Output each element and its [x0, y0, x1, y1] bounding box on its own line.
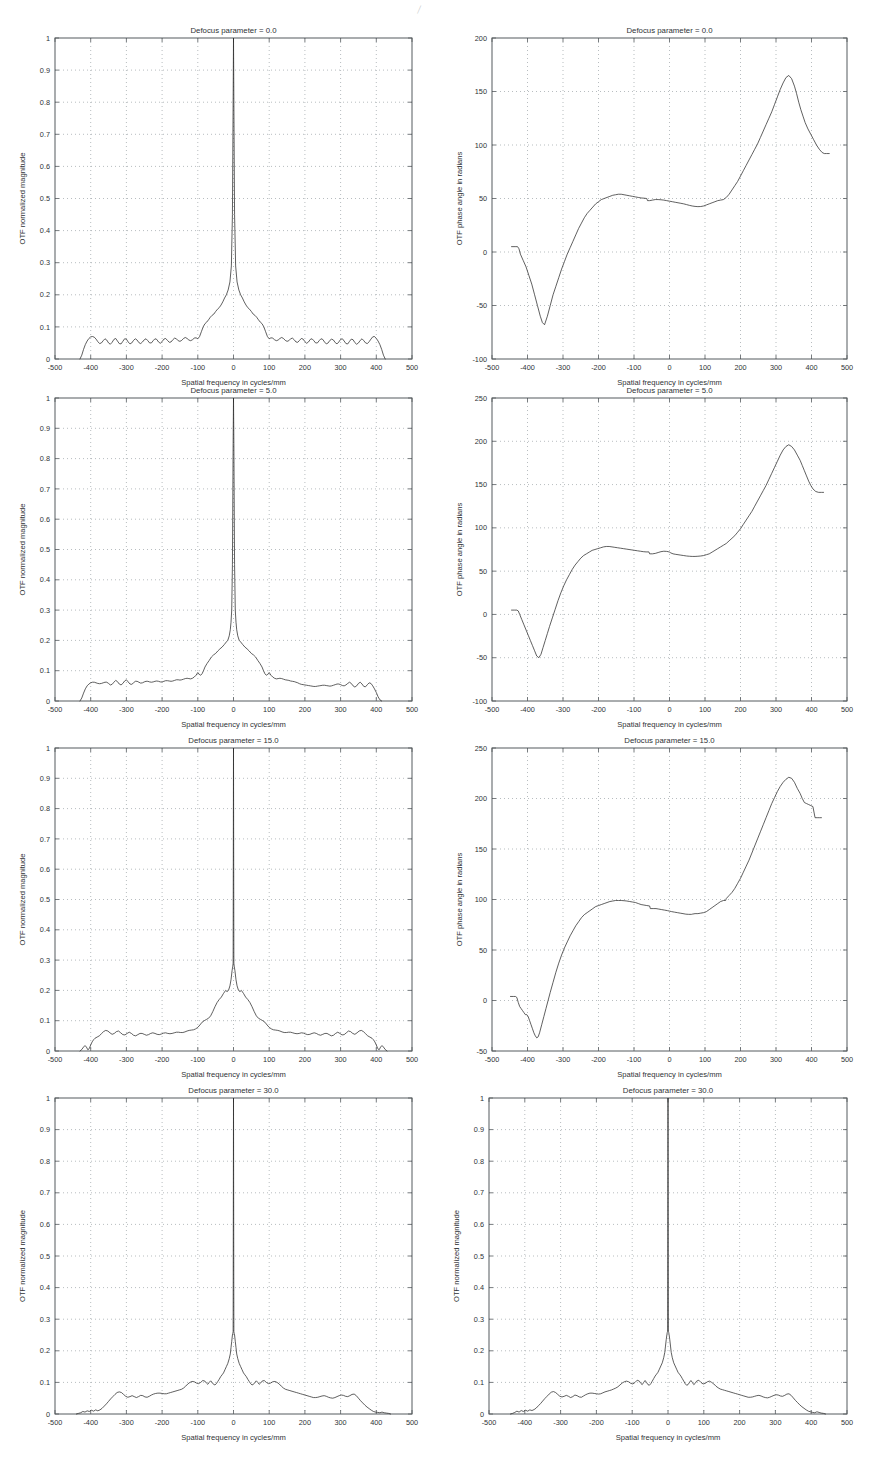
y-tick-label: 0.1	[40, 1016, 50, 1025]
x-tick-label: 0	[231, 1055, 235, 1064]
x-tick-label: 0	[667, 1055, 671, 1064]
y-tick-label: 1	[46, 744, 50, 753]
x-tick-label: -400	[520, 1055, 535, 1064]
x-tick-label: 500	[841, 1418, 853, 1427]
y-tick-label: 150	[475, 480, 487, 489]
y-tick-label: 0.5	[40, 1252, 50, 1261]
x-tick-label: 100	[699, 363, 711, 372]
x-tick-label: 400	[805, 1055, 817, 1064]
x-tick-label: 300	[770, 705, 782, 714]
y-tick-label: 0.9	[40, 774, 50, 783]
y-tick-label: 0.8	[474, 1157, 484, 1166]
x-tick-label: 100	[698, 1418, 710, 1427]
x-tick-label: -500	[485, 363, 500, 372]
y-tick-label: 0.4	[474, 1283, 484, 1292]
y-axis-label: OTF phase angle in radians	[455, 852, 464, 946]
y-tick-label: 0.1	[40, 1378, 50, 1387]
y-tick-label: 250	[475, 744, 487, 753]
x-tick-label: 100	[263, 1418, 275, 1427]
x-tick-label: 0	[231, 705, 235, 714]
x-tick-label: -300	[556, 705, 571, 714]
x-tick-label: 500	[841, 1055, 853, 1064]
y-tick-label: 0.6	[40, 162, 50, 171]
data-curve	[512, 75, 830, 324]
x-tick-label: -200	[591, 1055, 606, 1064]
y-tick-label: 100	[475, 523, 487, 532]
plot-panel-5: Defocus parameter = 15.0-500-400-300-200…	[0, 732, 434, 1089]
x-tick-label: -100	[627, 705, 642, 714]
y-tick-label: 0.9	[40, 424, 50, 433]
x-tick-label: -500	[48, 705, 63, 714]
x-tick-label: 500	[406, 1055, 418, 1064]
x-tick-label: -300	[553, 1418, 568, 1427]
x-tick-label: 0	[667, 363, 671, 372]
y-tick-label: 0	[483, 996, 487, 1005]
y-tick-label: 0.2	[474, 1346, 484, 1355]
x-axis-label: Spatial frequency in cycles/mm	[617, 720, 722, 729]
y-axis-label: OTF normalized magnitude	[18, 152, 27, 244]
y-tick-label: 0.8	[40, 1157, 50, 1166]
y-axis-label: OTF normalized magnitude	[18, 1210, 27, 1302]
x-axis-label: Spatial frequency in cycles/mm	[617, 1070, 722, 1079]
x-tick-label: -200	[155, 363, 170, 372]
x-tick-label: 200	[299, 363, 311, 372]
x-tick-label: 100	[263, 1055, 275, 1064]
y-tick-label: 0.2	[40, 290, 50, 299]
y-tick-label: 1	[46, 1094, 50, 1103]
otf-figure-grid: Defocus parameter = 0.0-500-400-300-200-…	[0, 0, 869, 1460]
y-tick-label: 100	[475, 141, 487, 150]
y-tick-label: 200	[475, 794, 487, 803]
y-tick-label: 50	[479, 946, 487, 955]
x-tick-label: 300	[770, 1055, 782, 1064]
plot-panel-4: Defocus parameter = 5.0-500-400-300-200-…	[434, 382, 869, 739]
plot-title: Defocus parameter = 15.0	[188, 736, 279, 745]
y-tick-label: 0.4	[40, 1283, 50, 1292]
y-tick-label: 0.5	[40, 194, 50, 203]
x-tick-label: -500	[485, 1055, 500, 1064]
y-tick-label: 0.7	[40, 1188, 50, 1197]
x-tick-label: -300	[119, 705, 134, 714]
data-curve	[512, 445, 824, 658]
x-axis-label: Spatial frequency in cycles/mm	[181, 1070, 286, 1079]
x-tick-label: -400	[520, 705, 535, 714]
y-tick-label: 0	[483, 610, 487, 619]
y-tick-label: 0.8	[40, 804, 50, 813]
x-tick-label: -500	[48, 1055, 63, 1064]
y-tick-label: 0.7	[40, 485, 50, 494]
y-tick-label: 50	[479, 567, 487, 576]
plot-panel-2: Defocus parameter = 0.0-500-400-300-200-…	[434, 22, 869, 397]
y-tick-label: 150	[475, 87, 487, 96]
plot-frame	[492, 748, 847, 1051]
x-tick-label: 500	[841, 705, 853, 714]
y-tick-label: 0.7	[40, 130, 50, 139]
x-tick-label: 300	[335, 1418, 347, 1427]
x-tick-label: -300	[556, 363, 571, 372]
y-tick-label: 0.3	[474, 1315, 484, 1324]
x-tick-label: 500	[406, 705, 418, 714]
x-tick-label: 200	[299, 1418, 311, 1427]
x-tick-label: -100	[190, 363, 205, 372]
y-tick-label: 0.3	[40, 1315, 50, 1324]
x-axis-label: Spatial frequency in cycles/mm	[181, 1433, 286, 1442]
y-tick-label: 0.2	[40, 636, 50, 645]
x-tick-label: 200	[734, 363, 746, 372]
x-tick-label: 400	[370, 1055, 382, 1064]
x-tick-label: 0	[231, 363, 235, 372]
y-tick-label: 1	[46, 394, 50, 403]
plot-panel-8: Defocus parameter = 30.0-500-400-300-200…	[434, 1082, 869, 1452]
x-tick-label: -100	[627, 1055, 642, 1064]
x-tick-label: -500	[48, 363, 63, 372]
y-tick-label: 0	[46, 1410, 50, 1419]
y-axis-label: OTF normalized magnitude	[18, 503, 27, 595]
x-tick-label: -100	[190, 705, 205, 714]
x-tick-label: 100	[263, 705, 275, 714]
x-tick-label: -100	[627, 363, 642, 372]
y-tick-label: 0.4	[40, 925, 50, 934]
y-tick-label: 0	[46, 697, 50, 706]
y-tick-label: 0.3	[40, 258, 50, 267]
y-tick-label: 0.4	[40, 226, 50, 235]
y-tick-label: 0	[46, 355, 50, 364]
x-axis-label: Spatial frequency in cycles/mm	[616, 1433, 721, 1442]
data-curve	[510, 777, 821, 1038]
x-tick-label: -200	[591, 705, 606, 714]
